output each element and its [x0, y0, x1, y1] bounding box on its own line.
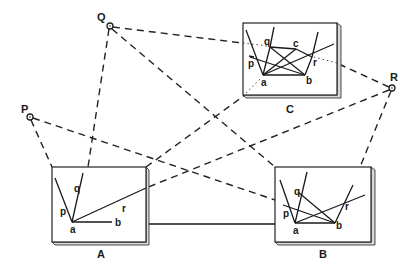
vertex-label-r: r: [313, 57, 317, 68]
viewpoint-r: R: [389, 71, 398, 91]
panel-label-c: C: [286, 103, 294, 115]
line-a-to-c: [146, 95, 245, 167]
vertex-label-p: p: [248, 58, 254, 69]
viewpoint-q: Q: [97, 11, 113, 29]
diagram-canvas: q c p r a b C q p r a b A q p r a b: [0, 0, 413, 275]
viewpoint-label-p: P: [21, 103, 28, 115]
vertex-label-a: a: [293, 225, 299, 236]
viewpoint-p: P: [21, 103, 33, 120]
panel-b-frame: [275, 167, 371, 242]
vertex-label-a: a: [261, 77, 267, 88]
line-q-to-a: [88, 29, 109, 167]
vertex-label-b: b: [115, 217, 121, 228]
line-q-to-c: [113, 27, 242, 43]
panel-label-b: B: [319, 248, 327, 260]
viewpoint-q-center: [109, 25, 111, 27]
panel-a: q p r a b A: [52, 167, 149, 260]
line-r-to-c: [341, 65, 389, 87]
viewpoint-r-center: [391, 87, 393, 89]
vertex-label-q: q: [294, 186, 300, 197]
vertex-label-b: b: [306, 75, 312, 86]
vertex-label-p: p: [283, 208, 289, 219]
line-p-to-a: [31, 120, 52, 167]
panel-a-frame: [52, 167, 146, 242]
vertex-label-a: a: [70, 224, 76, 235]
panel-b: q p r a b B: [275, 167, 375, 260]
vertex-label-c: c: [293, 38, 299, 49]
panel-label-a: A: [97, 248, 105, 260]
viewpoint-label-r: R: [390, 71, 398, 83]
vertex-label-r: r: [345, 201, 349, 212]
vertex-label-p: p: [60, 206, 66, 217]
diagram-svg: q c p r a b C q p r a b A q p r a b: [0, 0, 413, 275]
line-r-to-b: [360, 91, 391, 167]
vertex-label-b: b: [336, 220, 342, 231]
viewpoint-p-center: [29, 116, 31, 118]
vertex-label-r: r: [122, 203, 126, 214]
panel-c: q c p r a b C: [243, 23, 341, 115]
viewpoint-label-q: Q: [97, 11, 106, 23]
vertex-label-q: q: [74, 183, 80, 194]
vertex-label-q: q: [264, 36, 270, 47]
